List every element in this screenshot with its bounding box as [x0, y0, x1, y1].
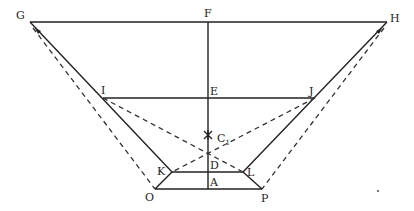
center-mark-C1 [204, 130, 212, 140]
geometry-diagram: G F H I E J C1 K D L O A P [0, 0, 414, 211]
label-D: D [210, 159, 219, 172]
label-A: A [209, 176, 219, 189]
label-P: P [261, 192, 269, 205]
label-C1: C1 [217, 132, 230, 147]
label-L: L [247, 166, 255, 179]
label-F: F [204, 7, 212, 20]
label-E: E [210, 85, 218, 98]
line-GK [30, 22, 172, 172]
line-HL [243, 22, 387, 172]
label-J: J [308, 85, 313, 98]
label-O: O [145, 191, 154, 204]
dashed-line-GO [33, 28, 155, 189]
dashed-line-JK [172, 98, 315, 172]
speck-mark [377, 190, 379, 192]
label-K: K [157, 165, 166, 178]
label-H: H [390, 12, 400, 25]
label-G: G [16, 9, 25, 22]
label-I: I [101, 84, 105, 97]
dashed-line-HP [262, 28, 384, 189]
